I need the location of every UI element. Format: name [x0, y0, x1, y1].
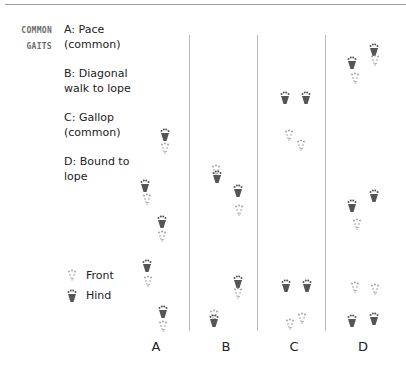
- hind-print-icon: [232, 183, 244, 202]
- hind-print-icon: [66, 289, 78, 306]
- front-print-icon: [295, 136, 307, 155]
- hind-print-icon: [300, 90, 312, 109]
- front-print-icon: [369, 280, 381, 299]
- column-label-b: B: [211, 339, 241, 354]
- hind-print-icon: [368, 188, 380, 207]
- gait-a-label: A: Pace (common): [64, 22, 164, 52]
- column-label-c: C: [279, 339, 309, 354]
- front-print-icon: [66, 269, 78, 284]
- front-print-icon: [141, 190, 153, 209]
- front-print-icon: [142, 272, 154, 291]
- key-front-label: Front: [86, 269, 114, 282]
- gait-legend: A: Pace (common) B: Diagonal walk to lop…: [64, 22, 164, 198]
- hind-print-icon: [280, 278, 292, 297]
- heading-line-2: GAITS: [10, 39, 52, 55]
- top-rule: [5, 4, 406, 5]
- section-heading: COMMON GAITS: [10, 23, 52, 55]
- hind-print-icon: [346, 313, 358, 332]
- front-print-icon: [156, 227, 168, 246]
- gait-c-label: C: Gallop (common): [64, 110, 164, 140]
- key-hind-label: Hind: [86, 289, 111, 302]
- front-print-icon: [351, 215, 363, 234]
- column-label-a: A: [141, 339, 171, 354]
- heading-line-1: COMMON: [10, 23, 52, 39]
- front-print-icon: [284, 315, 296, 334]
- column-label-d: D: [348, 339, 378, 354]
- hind-print-icon: [208, 313, 220, 332]
- hind-print-icon: [279, 90, 291, 109]
- front-print-icon: [296, 309, 308, 328]
- front-print-icon: [232, 284, 244, 303]
- front-print-icon: [283, 126, 295, 145]
- gait-b-label: B: Diagonal walk to lope: [64, 66, 164, 96]
- column-divider-2: [257, 35, 258, 331]
- hind-print-icon: [301, 278, 313, 297]
- front-print-icon: [349, 278, 361, 297]
- front-print-icon: [157, 317, 169, 336]
- front-print-icon: [159, 139, 171, 158]
- hind-print-icon: [368, 311, 380, 330]
- column-divider-3: [325, 35, 326, 331]
- front-print-icon: [369, 51, 381, 70]
- column-divider-1: [189, 35, 190, 331]
- hind-print-icon: [211, 169, 223, 188]
- front-print-icon: [349, 69, 361, 88]
- front-print-icon: [233, 201, 245, 220]
